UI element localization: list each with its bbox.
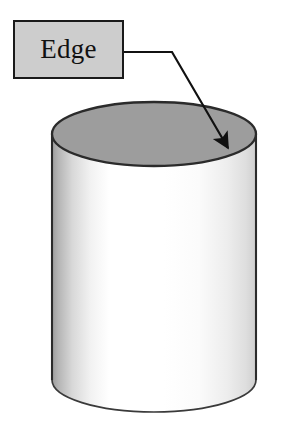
figure-canvas: Edge	[0, 0, 307, 437]
cylinder-top-face	[52, 102, 256, 166]
cylinder-lateral-surface	[52, 134, 256, 412]
callout-label-text: Edge	[40, 36, 96, 63]
callout-label-box[interactable]: Edge	[13, 20, 124, 79]
